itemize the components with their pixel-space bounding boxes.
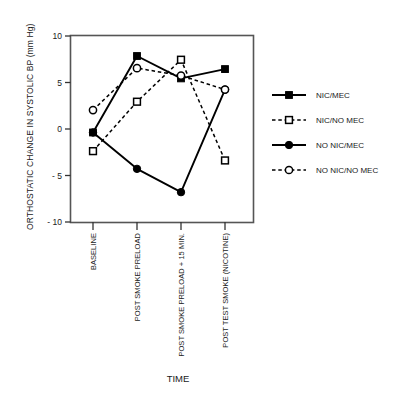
y-tick-label: 10	[53, 31, 63, 41]
legend-marker-open-square-icon	[286, 117, 293, 124]
data-point-open-circle-icon	[221, 86, 228, 93]
legend-marker-open-circle-icon	[285, 166, 292, 173]
data-point-open-circle-icon	[89, 107, 96, 114]
legend-label: NIC/MEC	[316, 91, 350, 100]
y-tick-label: 5	[57, 78, 62, 88]
chart-figure: 10 5 0 - 5 - 10 BASELINE POST SMOKE PREL…	[0, 0, 395, 400]
x-tick-label: BASELINE	[89, 233, 98, 270]
y-tick-label: 0	[57, 124, 62, 134]
series-line	[93, 90, 225, 193]
data-point-filled-circle-icon	[133, 165, 140, 172]
data-point-filled-circle-icon	[177, 188, 184, 195]
x-tick-label: POST SMOKE PRELOAD	[133, 232, 142, 321]
data-series-layer	[89, 53, 228, 196]
legend-label: NIC/NO MEC	[316, 116, 364, 125]
series-line	[93, 60, 225, 161]
data-point-filled-square-icon	[222, 66, 229, 73]
x-tick-label: POST TEST SMOKE (NICOTINE)	[221, 233, 230, 348]
y-tick-labels: 10 5 0 - 5 - 10	[47, 31, 62, 227]
legend-marker-filled-circle-icon	[285, 141, 292, 148]
data-point-open-square-icon	[134, 98, 141, 105]
chart-legend: NIC/MECNIC/NO MECNO NIC/MECNO NIC/NO MEC	[272, 91, 378, 175]
data-point-open-circle-icon	[177, 72, 184, 79]
data-point-open-circle-icon	[133, 65, 140, 72]
legend-label: NO NIC/NO MEC	[316, 166, 378, 175]
legend-item-no-nic-mec: NO NIC/MEC	[272, 141, 364, 150]
series-nic-mec	[90, 53, 229, 136]
data-point-open-square-icon	[90, 148, 97, 155]
legend-item-nic-mec: NIC/MEC	[272, 91, 350, 100]
plot-frame	[71, 36, 254, 223]
x-tick-labels: BASELINE POST SMOKE PRELOAD POST SMOKE P…	[89, 232, 230, 356]
data-point-open-square-icon	[222, 157, 229, 164]
data-point-filled-circle-icon	[89, 129, 96, 136]
series-line	[93, 68, 225, 110]
y-axis-ticks	[65, 36, 71, 222]
y-tick-label: - 10	[47, 217, 62, 227]
x-tick-label: POST SMOKE PRELOAD + 15 MIN.	[177, 233, 186, 357]
series-line	[93, 56, 225, 132]
data-point-open-square-icon	[178, 56, 185, 63]
data-point-filled-square-icon	[134, 53, 141, 60]
legend-marker-filled-square-icon	[286, 92, 293, 99]
legend-label: NO NIC/MEC	[316, 141, 364, 150]
chart-svg: 10 5 0 - 5 - 10 BASELINE POST SMOKE PREL…	[0, 0, 395, 400]
y-axis-title: ORTHOSTATIC CHANGE IN SYSTOLIC BP (mm Hg…	[25, 24, 35, 230]
legend-item-no-nic-no-mec: NO NIC/NO MEC	[272, 166, 378, 175]
x-axis-title: TIME	[167, 373, 190, 384]
legend-item-nic-no-mec: NIC/NO MEC	[272, 116, 364, 125]
y-tick-label: - 5	[52, 171, 62, 181]
